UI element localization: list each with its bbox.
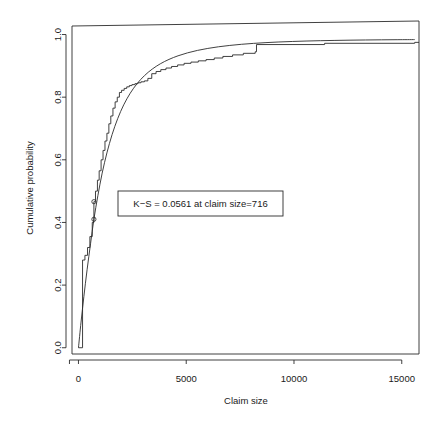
annotation-label: K−S = 0.0561 at claim size=716 xyxy=(133,198,267,209)
x-tick-label: 0 xyxy=(76,373,81,384)
x-tick-label: 10000 xyxy=(281,373,307,384)
x-tick-label: 15000 xyxy=(389,373,415,384)
y-tick-label: 1.0 xyxy=(52,28,63,41)
y-tick-label: 0.6 xyxy=(52,153,63,166)
y-tick-label: 0.0 xyxy=(52,341,63,354)
x-tick-label: 5000 xyxy=(176,373,197,384)
y-axis-title: Cumulative probability xyxy=(24,141,35,235)
y-tick-label: 0.4 xyxy=(52,216,63,229)
x-axis-title: Claim size xyxy=(224,395,268,406)
annotation-layer: K−S = 0.0561 at claim size=716 xyxy=(118,191,283,216)
y-tick-label: 0.2 xyxy=(52,278,63,291)
cdf-plot: 0.00.20.40.60.81.0 050001000015000 Cumul… xyxy=(0,0,447,423)
y-tick-label: 0.8 xyxy=(52,91,63,104)
chart-figure: 0.00.20.40.60.81.0 050001000015000 Cumul… xyxy=(0,0,447,423)
